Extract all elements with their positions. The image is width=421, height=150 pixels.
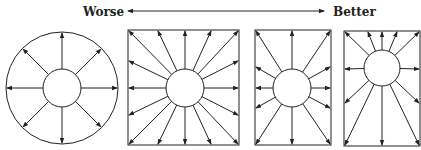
square-figure bbox=[128, 30, 239, 145]
rectangle-figure bbox=[255, 30, 331, 145]
diagram-graphics bbox=[0, 0, 421, 150]
rectangle-offset-figure bbox=[344, 31, 420, 146]
diagram: Worse Better bbox=[0, 0, 421, 150]
circle-figure bbox=[6, 32, 118, 144]
